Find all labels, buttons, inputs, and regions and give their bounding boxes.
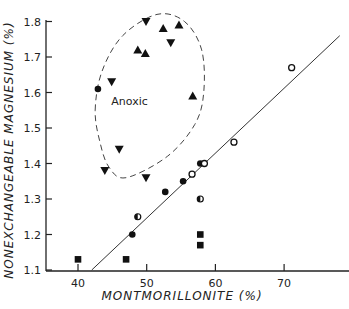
y-tick-label: 1.4: [24, 158, 42, 171]
open-circle-marker: [201, 161, 207, 167]
triangle-down-marker: [115, 146, 124, 154]
annotations: Anoxic: [111, 95, 148, 108]
triangle-down-marker: [142, 174, 151, 182]
square-marker: [75, 256, 82, 263]
x-axis-title: MONTMORILLONITE (%): [101, 289, 262, 303]
y-tick-label: 1.5: [24, 122, 42, 135]
triangle-up-marker: [141, 49, 150, 57]
triangle-down-marker: [142, 18, 151, 26]
y-tick-label: 1.8: [24, 16, 42, 29]
filled-circle-marker: [95, 86, 102, 93]
square-marker: [197, 231, 204, 238]
data-points: [75, 18, 295, 263]
open-circle-marker: [189, 171, 195, 177]
y-ticks: 1.11.21.31.41.51.61.71.8: [24, 16, 53, 278]
regression-line-group: [92, 36, 340, 270]
x-tick-label: 70: [277, 277, 291, 290]
open-circle-marker: [289, 65, 295, 71]
x-tick-label: 40: [71, 277, 85, 290]
open-circle-marker: [231, 139, 237, 145]
x-ticks: 40506070: [71, 264, 291, 290]
triangle-down-marker: [100, 167, 109, 175]
y-tick-label: 1.3: [24, 193, 42, 206]
triangle-up-marker: [159, 24, 168, 32]
y-tick-label: 1.1: [24, 264, 42, 277]
triangle-up-marker: [188, 92, 197, 100]
filled-circle-marker: [180, 178, 187, 185]
triangle-down-marker: [107, 78, 116, 86]
y-axis-title: NONEXCHANGEABLE MAGNESIUM (%): [2, 21, 16, 278]
square-marker: [197, 242, 204, 249]
filled-circle-marker: [162, 189, 169, 196]
y-tick-label: 1.6: [24, 87, 42, 100]
square-marker: [123, 256, 130, 263]
triangle-up-marker: [133, 45, 142, 53]
filled-circle-marker: [129, 231, 136, 238]
half-filled-circle-marker: [197, 196, 203, 202]
triangle-up-marker: [174, 21, 183, 29]
triangle-down-marker: [166, 39, 175, 47]
y-tick-label: 1.2: [24, 229, 42, 242]
y-tick-label: 1.7: [24, 51, 42, 64]
scatter-chart: 1.11.21.31.41.51.61.71.8 40506070 Anoxic…: [0, 0, 349, 309]
half-filled-circle-marker: [135, 214, 141, 220]
regression-line: [92, 36, 340, 270]
anoxic-label: Anoxic: [111, 95, 148, 108]
